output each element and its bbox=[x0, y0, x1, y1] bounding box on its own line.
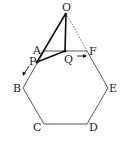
label-f: F bbox=[89, 45, 97, 58]
label-b: B bbox=[13, 82, 21, 95]
label-o: O bbox=[62, 1, 71, 14]
geometry-diagram: O A P Q F B E C D bbox=[0, 0, 121, 143]
label-q: Q bbox=[64, 53, 73, 66]
arrow-q-head-icon bbox=[83, 54, 87, 58]
dashed-segment-of bbox=[66, 13, 87, 51]
label-d: D bbox=[89, 121, 98, 134]
label-e: E bbox=[109, 82, 117, 95]
label-c: C bbox=[33, 121, 41, 134]
label-p: P bbox=[29, 55, 37, 68]
segment-op bbox=[37, 13, 66, 62]
segment-oq bbox=[65, 13, 66, 51]
